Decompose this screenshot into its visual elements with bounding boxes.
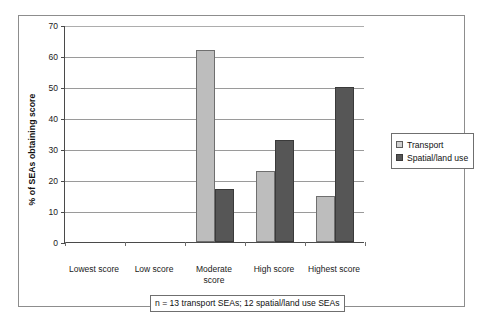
x-axis-tick-mark [185, 242, 186, 246]
bar-group [185, 26, 245, 242]
x-axis-label: Highest score [294, 264, 374, 275]
figure-frame: % of SEAs obtaining score 01020304050607… [18, 15, 465, 307]
x-axis-tick-mark [305, 242, 306, 246]
x-axis-tick-mark [365, 242, 366, 246]
y-axis-title: % of SEAs obtaining score [25, 41, 39, 258]
bar-spatial [335, 87, 354, 242]
bar-group [125, 26, 185, 242]
bar-transport [256, 171, 275, 242]
legend-item[interactable]: Transport [396, 138, 468, 151]
bar-spatial [215, 189, 234, 242]
caption-box: n = 13 transport SEAs; 12 spatial/land u… [150, 295, 345, 312]
legend-label: Transport [407, 140, 443, 150]
x-axis-tick-mark [65, 242, 66, 246]
bar-transport [196, 50, 215, 242]
x-axis-tick-mark [125, 242, 126, 246]
bar-transport [316, 196, 335, 243]
caption-text: n = 13 transport SEAs; 12 spatial/land u… [155, 298, 340, 309]
chart-legend: TransportSpatial/land use [391, 133, 474, 169]
bar-spatial [275, 140, 294, 242]
legend-label: Spatial/land use [407, 153, 468, 163]
bar-group [245, 26, 305, 242]
legend-item[interactable]: Spatial/land use [396, 151, 468, 164]
bars-layer [65, 26, 364, 242]
legend-swatch-icon [396, 154, 403, 161]
plot-area: 010203040506070 [64, 26, 364, 243]
x-axis-tick-mark [245, 242, 246, 246]
legend-swatch-icon [396, 141, 403, 148]
bar-group [65, 26, 125, 242]
bar-group [305, 26, 365, 242]
